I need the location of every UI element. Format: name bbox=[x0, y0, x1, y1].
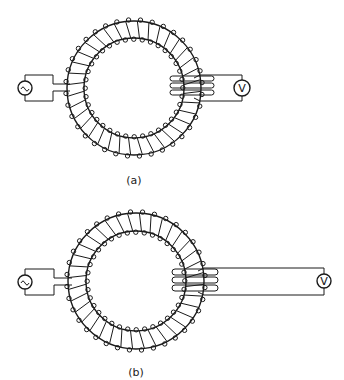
panel-label-b: (b) bbox=[128, 366, 144, 379]
voltmeter-icon: V bbox=[317, 274, 331, 288]
voltmeter-icon: V bbox=[234, 80, 250, 96]
secondary-coil-icon bbox=[170, 75, 242, 101]
secondary-coil-icon bbox=[172, 268, 324, 295]
ac-source-icon bbox=[18, 269, 72, 295]
ac-source-icon bbox=[18, 75, 70, 101]
svg-text:V: V bbox=[238, 82, 246, 95]
panel-b-toroid-circuit: V (b) bbox=[18, 210, 331, 379]
panel-a-toroid-circuit: V (a) bbox=[18, 18, 250, 187]
svg-text:V: V bbox=[320, 275, 328, 288]
panel-label-a: (a) bbox=[126, 174, 141, 187]
toroid-core-icon bbox=[65, 210, 207, 352]
transformer-figure: V (a) V (b) bbox=[0, 0, 344, 380]
